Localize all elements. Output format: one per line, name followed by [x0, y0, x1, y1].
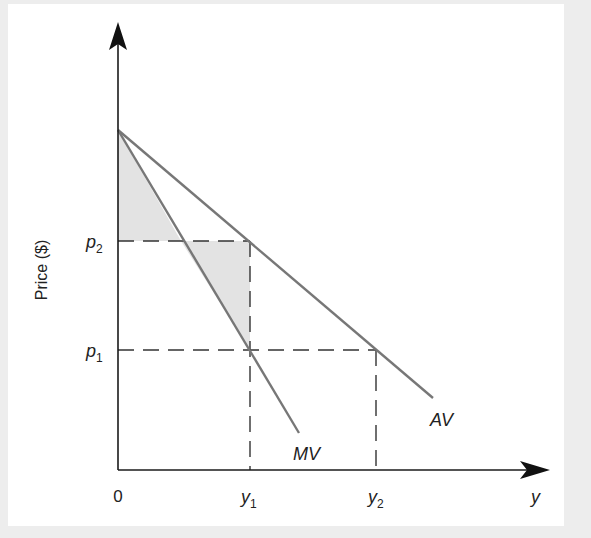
mv-curve [118, 130, 299, 433]
av-curve-label: AV [429, 410, 455, 430]
origin-label: 0 [113, 487, 122, 506]
tick-label-p1: p1 [85, 341, 103, 365]
price-quantity-diagram: Price ($) 0 p2 p1 y1 y2 y AV MV [0, 0, 591, 538]
p2-subscript: 2 [96, 242, 103, 256]
y1-subscript: 1 [250, 497, 257, 511]
y-axis-label: Price ($) [33, 240, 50, 300]
av-curve [118, 130, 433, 398]
y2-subscript: 2 [377, 497, 384, 511]
mv-curve-label: MV [293, 444, 322, 464]
p2-symbol: p [85, 232, 96, 252]
tick-label-y1: y1 [239, 487, 257, 511]
tick-label-p2: p2 [85, 232, 103, 256]
tick-label-y2: y2 [366, 487, 384, 511]
x-axis-label: y [529, 487, 541, 507]
p1-subscript: 1 [96, 351, 103, 365]
p1-symbol: p [85, 341, 96, 361]
